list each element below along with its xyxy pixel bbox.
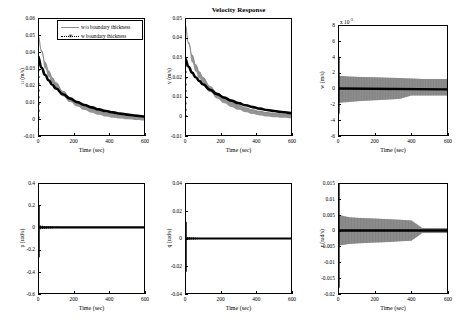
x-tickmark (292, 291, 293, 294)
y-tickmark (185, 136, 188, 137)
x-tickmark (145, 133, 146, 136)
y-tickmark (338, 120, 341, 121)
x-tick-label: 600 (436, 296, 460, 302)
y-axis-label: r (rad/s) (319, 208, 325, 268)
x-axis-label: Time (sec) (38, 305, 145, 311)
y-tick-label: 0.015 (313, 180, 335, 186)
x-axis-label: Time (sec) (338, 305, 448, 311)
y-tickmark (338, 88, 341, 89)
y-tick-label: 0.04 (160, 34, 182, 40)
x-tick-label: 200 (363, 296, 387, 302)
y-tickmark (338, 104, 341, 105)
x-tickmark (256, 133, 257, 136)
x-axis-label: Time (sec) (38, 147, 145, 153)
y-tickmark (38, 119, 41, 120)
legend-label: w boundary thickness (81, 33, 126, 39)
x-tick-label: 0 (173, 296, 197, 302)
y-tickmark (338, 73, 341, 74)
plot-area-w-velocity (338, 25, 448, 136)
x-tickmark (74, 291, 75, 294)
y-tick-label: -0.4 (13, 269, 35, 275)
y-tick-label: 0.06 (13, 15, 35, 21)
x-tick-label: 0 (173, 138, 197, 144)
plot-area-r-rate (338, 183, 448, 294)
x-tick-label: 400 (399, 138, 423, 144)
x-tickmark (411, 291, 412, 294)
y-tickmark (338, 25, 341, 26)
legend-item-2: ✳w boundary thickness (61, 33, 126, 39)
x-tick-label: 600 (280, 138, 304, 144)
x-tickmark (221, 133, 222, 136)
x-tick-label: 600 (280, 296, 304, 302)
x-tick-label: 200 (209, 296, 233, 302)
y-tickmark (338, 199, 341, 200)
x-tick-label: 600 (436, 138, 460, 144)
x-tick-label: 600 (133, 296, 157, 302)
x-tick-label: 600 (133, 138, 157, 144)
y-tickmark (38, 85, 41, 86)
y-tickmark (38, 18, 41, 19)
y-tick-label: 0.4 (13, 180, 35, 186)
x-tick-label: 200 (62, 138, 86, 144)
y-tick-label: -6 (313, 133, 335, 139)
x-tick-label: 0 (326, 138, 350, 144)
y-tickmark (38, 102, 41, 103)
x-tickmark (375, 291, 376, 294)
x-tick-label: 400 (399, 296, 423, 302)
y-tickmark (338, 183, 341, 184)
y-tickmark (338, 231, 341, 232)
y-tickmark (338, 41, 341, 42)
y-tickmark (338, 262, 341, 263)
x-tick-label: 200 (209, 138, 233, 144)
y-tickmark (38, 250, 41, 251)
y-tick-label: 0.01 (313, 196, 335, 202)
y-axis-label: p (rad/s) (19, 208, 25, 268)
y-tickmark (185, 116, 188, 117)
y-tickmark (185, 77, 188, 78)
x-tickmark (292, 133, 293, 136)
y-tickmark (185, 266, 188, 267)
x-tickmark (375, 133, 376, 136)
x-tickmark (109, 133, 110, 136)
y-axis-label: w (m/s) (319, 50, 325, 110)
legend-label: w/o boundary thickness (81, 24, 130, 30)
x-tickmark (74, 133, 75, 136)
y-tickmark (185, 211, 188, 212)
y-tickmark (185, 97, 188, 98)
y-tickmark (185, 18, 188, 19)
y-tickmark (338, 294, 341, 295)
y-tickmark (338, 246, 341, 247)
y-tickmark (185, 57, 188, 58)
x-tickmark (221, 291, 222, 294)
y-tickmark (38, 227, 41, 228)
y-tickmark (185, 239, 188, 240)
plot-area-p-rate (38, 183, 145, 294)
y-tickmark (185, 183, 188, 184)
y-tick-label: 0.05 (160, 15, 182, 21)
x-tick-label: 0 (26, 138, 50, 144)
y-tick-label: -0.04 (160, 291, 182, 297)
y-tickmark (38, 205, 41, 206)
x-tick-label: 400 (244, 138, 268, 144)
y-axis-label: u (m/s) (19, 46, 25, 106)
x-tick-label: 0 (26, 296, 50, 302)
y-tick-label: 0.04 (160, 180, 182, 186)
y-tickmark (338, 57, 341, 58)
y-tickmark (38, 272, 41, 273)
star-marker-icon: ✳ (68, 33, 73, 39)
y-tickmark (38, 52, 41, 53)
plot-area-v-velocity (185, 18, 292, 136)
y-tickmark (38, 35, 41, 36)
x-tickmark (109, 291, 110, 294)
x-axis-label: Time (sec) (185, 305, 292, 311)
y-axis-label: v (m/s) (166, 46, 172, 106)
x-tickmark (145, 291, 146, 294)
x-tickmark (448, 291, 449, 294)
x-tick-label: 400 (244, 296, 268, 302)
y-tickmark (38, 69, 41, 70)
y-tick-label: -0.01 (160, 133, 182, 139)
y-tick-label: 0 (160, 113, 182, 119)
x-tick-label: 0 (326, 296, 350, 302)
y-tickmark (338, 136, 341, 137)
y-tick-label: 8 (313, 22, 335, 28)
